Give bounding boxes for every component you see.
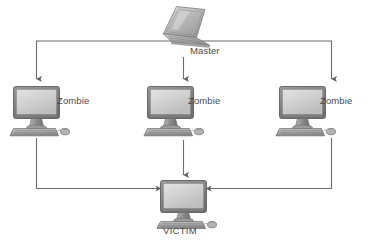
node-label-zombie-right: Zombie xyxy=(320,96,352,106)
edge-zombie-left-to-victim xyxy=(37,138,162,189)
node-label-master: Master xyxy=(190,46,220,56)
desktop-computer-icon-zombie-right xyxy=(276,87,336,136)
node-label-zombie-left: Zombie xyxy=(57,96,89,106)
edge-master-to-zombie-left xyxy=(37,41,173,79)
diagram-canvas xyxy=(0,0,368,250)
desktop-computer-icon-zombie-left xyxy=(10,87,70,136)
ddos-attack-diagram: Master Zombie Zombie Zombie VICTIM xyxy=(0,0,368,250)
desktop-computer-icon-zombie-mid xyxy=(144,87,204,136)
desktop-computer-icon-victim xyxy=(157,181,217,229)
edge-zombie-right-to-victim xyxy=(206,138,332,189)
node-label-zombie-mid: Zombie xyxy=(188,96,220,106)
node-label-victim: VICTIM xyxy=(163,226,197,236)
